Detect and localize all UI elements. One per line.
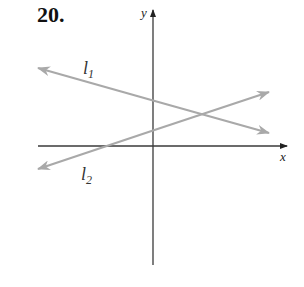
line-l1-right-arrow-icon bbox=[153, 101, 269, 134]
line-l1-label: l1 bbox=[83, 58, 94, 81]
line-l1-left-arrow-icon bbox=[38, 68, 153, 101]
coordinate-diagram: 20. y x l1 l2 bbox=[0, 0, 304, 287]
line-l2-label: l2 bbox=[81, 164, 92, 187]
y-axis-label: y bbox=[139, 5, 147, 20]
line-l2-left-arrow-icon bbox=[38, 131, 153, 170]
x-axis-label: x bbox=[279, 149, 286, 164]
problem-number: 20. bbox=[37, 2, 65, 27]
line-l2-right-arrow-icon bbox=[153, 92, 269, 131]
